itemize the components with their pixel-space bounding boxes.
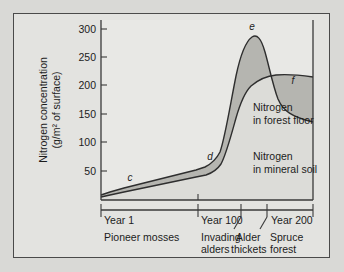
x-phase-invading-alders-line1: Invading [201, 231, 241, 243]
mineral-soil-label-line1: Nitrogen [253, 150, 293, 162]
y-axis-label-line2: (g/m² of surface) [50, 71, 62, 148]
point-label-c: c [128, 172, 133, 183]
mineral-soil-label-line2: in mineral soil [253, 163, 317, 175]
x-phase-alder-thickets-line1: Alder [236, 231, 261, 243]
forest-floor-label-line2: in forest floor [253, 114, 314, 126]
point-label-d: d [207, 151, 213, 162]
y-axis-label-line1: Nitrogen concentration [37, 57, 49, 163]
point-label-e: e [249, 21, 255, 32]
y-tick-label-200: 200 [78, 79, 96, 91]
x-phase-spruce-forest-line2: forest [270, 243, 296, 255]
x-year-label-200: Year 200 [271, 214, 313, 226]
x-year-label-1: Year 1 [104, 214, 134, 226]
y-tick-label-300: 300 [78, 23, 96, 35]
y-tick-label-50: 50 [84, 165, 96, 177]
y-tick-label-250: 250 [78, 51, 96, 63]
x-phase-spruce-forest-line1: Spruce [270, 231, 303, 243]
leader-line-spruce-forest [260, 217, 267, 229]
forest-floor-label-line1: Nitrogen [253, 101, 293, 113]
x-phase-alder-thickets-line2: thickets [231, 243, 267, 255]
y-tick-label-100: 100 [78, 136, 96, 148]
x-phase-invading-alders-line2: alders [201, 243, 230, 255]
y-tick-label-150: 150 [78, 108, 96, 120]
figure-container: 300 250 200 150 100 50 Nitrogen concentr… [13, 13, 330, 258]
x-phase-pioneer-mosses: Pioneer mosses [104, 231, 179, 243]
nitrogen-succession-chart: 300 250 200 150 100 50 Nitrogen concentr… [14, 14, 329, 257]
